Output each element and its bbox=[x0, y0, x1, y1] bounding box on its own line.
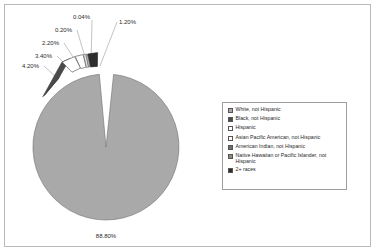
legend-swatch-icon bbox=[228, 145, 233, 150]
legend-item-label: Black, not Hispanic bbox=[236, 116, 281, 122]
legend-item-label: Hispanic bbox=[236, 125, 256, 131]
chart-legend: White, not Hispanic Black, not Hispanic … bbox=[222, 102, 347, 190]
legend-item-label: Asian Pacific American, not Hispanic bbox=[236, 135, 321, 141]
legend-item-black-not-hispanic[interactable]: Black, not Hispanic bbox=[228, 116, 343, 122]
data-label-hispanic: 3.40% bbox=[35, 53, 53, 59]
legend-swatch-icon bbox=[228, 117, 233, 122]
legend-item-hispanic[interactable]: Hispanic bbox=[228, 125, 343, 131]
legend-swatch-icon bbox=[228, 126, 233, 131]
legend-item-two-plus-races[interactable]: 2+ races bbox=[228, 167, 343, 173]
legend-swatch-icon bbox=[228, 108, 233, 113]
legend-item-label: White, not Hispanic bbox=[236, 107, 281, 113]
data-label-asian-pacific-american: 2.20% bbox=[42, 40, 60, 46]
leader-line-two-races bbox=[100, 22, 117, 66]
data-label-black-not-hispanic: 4.20% bbox=[22, 63, 40, 69]
legend-item-label: 2+ races bbox=[236, 167, 256, 173]
data-label-two-plus-races: 1.20% bbox=[119, 19, 137, 25]
legend-item-label: Native Hawaiian or Pacific Islander, not… bbox=[236, 153, 344, 164]
slice-white-not-hispanic bbox=[33, 74, 179, 220]
legend-swatch-icon bbox=[228, 136, 233, 141]
legend-item-native-hawaiian-pacific-islander[interactable]: Native Hawaiian or Pacific Islander, not… bbox=[228, 153, 343, 164]
legend-item-white-not-hispanic[interactable]: White, not Hispanic bbox=[228, 107, 343, 113]
pie-slices bbox=[33, 53, 179, 220]
chart-canvas: 88.80% 4.20% 3.40% 2.20% 0.20% 0.04% 1.2… bbox=[0, 0, 376, 252]
legend-item-label: American Indian, not Hispanic bbox=[236, 144, 306, 150]
legend-item-asian-pacific-american[interactable]: Asian Pacific American, not Hispanic bbox=[228, 135, 343, 141]
data-label-white-not-hispanic: 88.80% bbox=[96, 233, 117, 239]
legend-swatch-icon bbox=[228, 154, 233, 159]
legend-swatch-icon bbox=[228, 168, 233, 173]
data-label-american-indian: 0.20% bbox=[55, 27, 73, 33]
data-label-native-hawaiian: 0.04% bbox=[73, 14, 91, 20]
legend-item-american-indian[interactable]: American Indian, not Hispanic bbox=[228, 144, 343, 150]
